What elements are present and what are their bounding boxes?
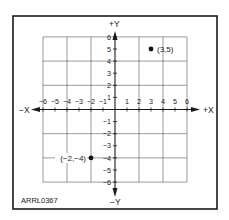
point-label: (−2,−4): [60, 154, 86, 163]
x-axis-negative-label: −X: [19, 105, 30, 115]
y-axis-negative-label: −Y: [110, 197, 121, 207]
x-tick-label: −4: [63, 97, 71, 106]
x-axis-positive-label: +X: [203, 105, 214, 115]
point-marker: [149, 47, 154, 52]
y-tick-label: 2: [107, 81, 111, 90]
arrow-left-icon: [31, 107, 40, 112]
axes: [31, 31, 200, 197]
y-tick-label: 6: [107, 33, 111, 42]
arrow-down-icon: [113, 188, 118, 197]
x-tick-label: −3: [75, 97, 83, 106]
point-label: (3,5): [157, 45, 174, 54]
plotted-points: (3,5)(−2,−4): [55, 45, 174, 163]
x-tick-label: 6: [185, 97, 189, 106]
x-tick-label: −1: [99, 97, 107, 106]
y-tick-label: −3: [103, 141, 111, 150]
y-tick-label: −2: [103, 129, 111, 138]
y-tick-label: 3: [107, 69, 111, 78]
y-tick-label: −5: [103, 166, 111, 175]
arrow-up-icon: [113, 31, 118, 40]
x-tick-label: 5: [173, 97, 177, 106]
coordinate-plane-diagram: −6−5−4−3−2−1123456 654321−1−2−3−4−5−6 +X…: [0, 0, 229, 220]
y-tick-label: 5: [107, 45, 111, 54]
y-tick-label: 4: [107, 57, 111, 66]
y-axis-positive-label: +Y: [109, 19, 120, 29]
x-tick-label: 1: [125, 97, 129, 106]
x-tick-label: −5: [51, 97, 59, 106]
y-tick-label: 1: [107, 93, 111, 102]
x-tick-label: 4: [161, 97, 165, 106]
y-tick-label: −4: [103, 154, 111, 163]
x-tick-label: −2: [87, 97, 95, 106]
point-marker: [89, 156, 94, 161]
y-tick-label: −6: [103, 178, 111, 187]
x-tick-label: 2: [137, 97, 141, 106]
x-tick-labels: −6−5−4−3−2−1123456: [39, 97, 189, 106]
x-tick-label: −6: [39, 97, 47, 106]
figure-id-label: ARRL0367: [21, 196, 58, 205]
x-tick-label: 3: [149, 97, 153, 106]
y-tick-label: −1: [103, 117, 111, 126]
arrow-right-icon: [191, 107, 200, 112]
